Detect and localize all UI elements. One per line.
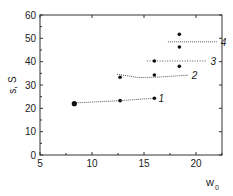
series-label-4: 4 xyxy=(221,37,227,48)
data-point xyxy=(153,59,157,63)
axis-labels: s, Sw0 xyxy=(7,76,219,191)
y-tick-label: 20 xyxy=(25,103,37,114)
y-tick-label: 40 xyxy=(25,56,37,67)
data-point xyxy=(178,65,182,69)
series-label-1: 1 xyxy=(158,93,164,104)
series-label-3: 3 xyxy=(210,56,216,67)
data-point xyxy=(153,97,157,101)
x-axis-label-subscript: 0 xyxy=(215,184,219,191)
y-axis-label: s, S xyxy=(7,76,18,94)
x-axis-label: w xyxy=(205,176,214,188)
y-tick-label: 10 xyxy=(25,126,37,137)
series-line-2 xyxy=(117,74,188,77)
data-point xyxy=(178,45,182,49)
data-point xyxy=(72,101,77,106)
data-point xyxy=(153,73,157,77)
chart: 51015200102030405060 1234 s, Sw0 xyxy=(0,0,233,196)
data-point xyxy=(118,99,122,103)
x-tick-label: 20 xyxy=(190,158,202,169)
y-tick-label: 60 xyxy=(25,10,37,21)
x-tick-label: 10 xyxy=(86,158,98,169)
series-line-1 xyxy=(74,98,154,103)
x-tick-label: 5 xyxy=(37,158,43,169)
plot-frame xyxy=(40,15,222,155)
y-tick-label: 50 xyxy=(25,33,37,44)
data-point xyxy=(118,76,122,80)
series-label-2: 2 xyxy=(191,70,198,81)
plot-series: 1234 xyxy=(72,33,227,107)
y-tick-label: 0 xyxy=(30,150,36,161)
x-tick-label: 15 xyxy=(138,158,150,169)
data-point xyxy=(178,33,182,37)
y-tick-label: 30 xyxy=(25,80,37,91)
plot-axes: 51015200102030405060 xyxy=(25,10,222,170)
